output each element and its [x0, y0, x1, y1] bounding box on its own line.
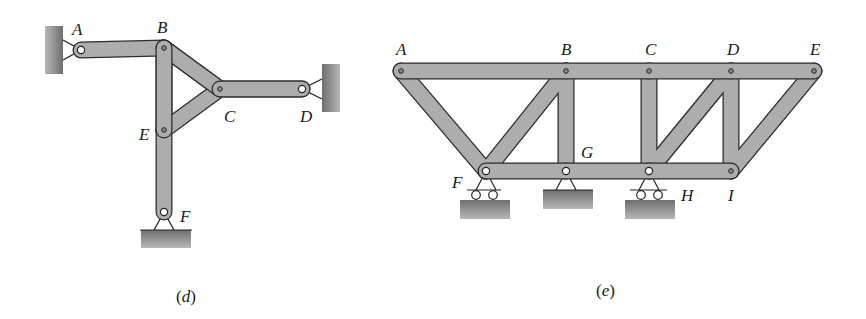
joint-label-f: F [451, 173, 463, 192]
joint-label-d: D [726, 40, 740, 59]
joint-label-b: B [561, 40, 572, 59]
joint-label-d: D [299, 107, 313, 126]
joint-label-b: B [157, 18, 168, 37]
pin-d-icon [729, 69, 734, 74]
wall-support-right [322, 64, 340, 112]
members-e [401, 71, 814, 171]
ground-support-g [543, 190, 593, 209]
joint-label-a: A [71, 20, 83, 39]
joint-label-a: A [395, 40, 407, 59]
figure-caption-e: (e) [596, 281, 615, 300]
joint-label-e: E [809, 40, 821, 59]
joint-label-g: G [581, 143, 593, 162]
joint-label-h: H [680, 186, 695, 205]
pin-h-icon [645, 167, 652, 174]
pin-a-icon [399, 69, 404, 74]
joint-label-c: C [645, 40, 657, 59]
joint-label-c: C [224, 107, 236, 126]
figure-e-frame: A B C D E F G H I (e) [395, 40, 821, 300]
joint-label-e: E [138, 125, 150, 144]
figure-caption-d: (d) [176, 287, 196, 306]
pin-b-icon [162, 46, 167, 51]
pin-a-icon [77, 46, 84, 53]
ground-support-h [625, 200, 675, 219]
pin-g-icon [562, 167, 569, 174]
pin-b-icon [564, 69, 569, 74]
pin-c-icon [218, 87, 223, 92]
wall-support-left [45, 26, 63, 74]
pin-c-icon [647, 69, 652, 74]
pin-f-icon [160, 208, 167, 215]
joint-label-i: I [727, 186, 735, 205]
pin-d-icon [298, 85, 305, 92]
truss-diagrams: A B C D E F (d) [0, 0, 866, 319]
ground-support-f [141, 230, 191, 248]
pin-e-icon [162, 128, 167, 133]
ground-support-f [460, 200, 510, 219]
joint-label-f: F [179, 207, 191, 226]
members-d [81, 48, 302, 212]
pin-i-icon [729, 169, 734, 174]
figure-d-frame: A B C D E F (d) [45, 18, 340, 306]
pin-e-icon [812, 69, 817, 74]
pin-f-icon [482, 167, 489, 174]
pins-e [399, 69, 817, 175]
